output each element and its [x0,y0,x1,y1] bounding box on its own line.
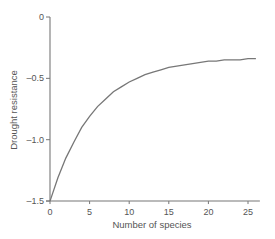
x-axis-ticks: 0510152025 [47,201,253,217]
axes [46,17,260,201]
line-chart: 0–0.5–1.0–1.5 0510152025 Number of speci… [0,0,275,239]
x-tick-label: 20 [203,207,213,217]
y-tick-label: –1.5 [26,196,44,206]
y-tick-label: –0.5 [26,73,44,83]
x-tick-label: 15 [164,207,174,217]
x-tick-label: 5 [87,207,92,217]
y-axis-ticks: 0–0.5–1.0–1.5 [26,12,50,206]
x-tick-label: 0 [47,207,52,217]
y-tick-label: 0 [39,12,44,22]
y-axis-label: Drought resistance [8,70,19,150]
x-tick-label: 10 [124,207,134,217]
x-tick-label: 25 [243,207,253,217]
x-axis-label: Number of species [112,219,191,230]
y-tick-label: –1.0 [26,135,44,145]
data-line [50,59,256,201]
